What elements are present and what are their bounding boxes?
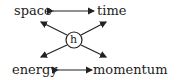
h-space-arrow [41,22,67,35]
label-momentum: momentum [93,63,167,77]
label-h: h [70,33,77,47]
h-time-arrow [81,22,106,35]
diagram: space time energy momentum h [0,0,178,80]
label-time: time [97,4,126,18]
label-space: space [14,4,52,18]
label-energy: energy [12,63,58,77]
h-momentum-arrow [81,45,106,57]
h-energy-arrow [41,45,67,57]
